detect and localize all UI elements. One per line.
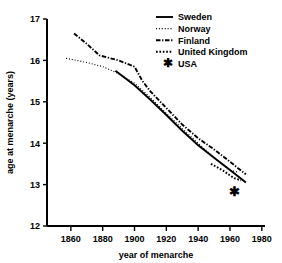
legend-label: United Kingdom	[178, 47, 248, 57]
legend-item-norway: Norway	[156, 24, 211, 34]
x-tick-label: 1940	[188, 234, 208, 244]
menarche-age-chart: 121314151617 186018801900192019401960198…	[0, 0, 282, 263]
y-axis-tick-labels: 121314151617	[30, 14, 40, 231]
x-tick-label: 1920	[156, 234, 176, 244]
legend-label: Norway	[178, 24, 211, 34]
legend-label: Sweden	[178, 12, 212, 22]
y-tick-label: 13	[30, 180, 40, 190]
legend-label: Finland	[178, 36, 210, 46]
legend-item-finland: Finland	[156, 36, 210, 46]
x-axis-title: year of menarche	[119, 250, 194, 260]
y-tick-label: 15	[30, 97, 40, 107]
x-axis-tick-labels: 1860188019001920194019601980	[61, 234, 272, 244]
data-series-group: ✱	[66, 33, 246, 199]
x-tick-label: 1900	[125, 234, 145, 244]
chart-canvas: 121314151617 186018801900192019401960198…	[0, 0, 282, 263]
y-axis-title: age at menarche (years)	[5, 71, 15, 174]
x-tick-label: 1960	[220, 234, 240, 244]
x-tick-label: 1980	[252, 234, 272, 244]
chart-legend: SwedenNorwayFinlandUnited Kingdom✱USA	[156, 12, 248, 70]
y-axis: 121314151617	[30, 14, 47, 231]
y-tick-label: 14	[30, 139, 40, 149]
legend-item-sweden: Sweden	[156, 12, 212, 22]
y-tick-label: 17	[30, 14, 40, 24]
y-tick-label: 12	[30, 221, 40, 231]
x-tick-label: 1860	[61, 234, 81, 244]
legend-swatch-asterisk-icon: ✱	[163, 56, 173, 70]
usa-asterisk-marker: ✱	[229, 184, 240, 199]
x-axis: 1860188019001920194019601980	[47, 226, 272, 244]
x-tick-label: 1880	[93, 234, 113, 244]
series-usa: ✱	[229, 184, 240, 199]
legend-label: USA	[178, 59, 198, 69]
legend-item-usa: ✱USA	[163, 56, 198, 70]
y-tick-label: 16	[30, 56, 40, 66]
